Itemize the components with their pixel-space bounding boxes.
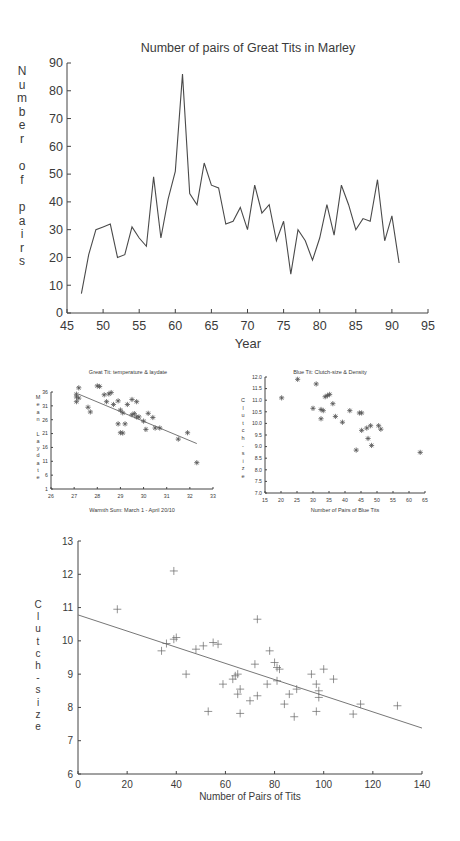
y-axis-label-letter: h: [241, 435, 244, 441]
data-point-marker: [153, 425, 158, 430]
data-point-marker: [209, 639, 217, 647]
data-point-marker: [170, 567, 178, 575]
x-tick-label: 75: [277, 319, 291, 333]
data-point-marker: [74, 399, 79, 404]
y-axis-label-letter: L: [36, 431, 39, 437]
y-tick-label: 90: [49, 56, 63, 70]
y-axis-label-letter: n: [36, 416, 39, 422]
x-tick-label: 0: [75, 779, 81, 790]
x-tick-label: 140: [414, 779, 431, 790]
y-tick-label: 11: [63, 602, 74, 613]
data-point-marker: [340, 420, 345, 425]
axes: 4550556065707580859095010203040506070809…: [49, 56, 435, 333]
y-axis-label-letter: r: [20, 241, 24, 255]
axes: 262728293031323316111621263136: [42, 389, 216, 499]
x-tick-label: 40: [171, 779, 183, 790]
y-axis-label-letter: e: [36, 401, 39, 407]
x-axis-label: Year: [235, 336, 262, 351]
y-axis-label-letter: i: [21, 227, 24, 241]
y-axis-label-letter: l: [37, 611, 39, 622]
chart-title: Great Tit: temperature & laydate: [89, 369, 167, 375]
x-tick-label: 60: [406, 497, 412, 503]
great-tit-temperature-laydate-scatter: Great Tit: temperature & laydate MeanLay…: [36, 369, 216, 513]
data-point-marker: [176, 437, 181, 442]
y-axis-label-letter: -: [36, 672, 39, 683]
data-point-marker: [253, 692, 261, 700]
data-point-marker: [88, 409, 93, 414]
x-tick-label: 85: [349, 319, 363, 333]
data-point-marker: [204, 707, 212, 715]
axes: 15202530354045505560657.07.58.08.59.09.5…: [252, 374, 428, 503]
x-tick-label: 45: [358, 497, 364, 503]
x-tick-label: 80: [313, 319, 327, 333]
line-series: [81, 74, 399, 294]
x-tick-label: 80: [269, 779, 281, 790]
data-point-marker: [158, 647, 166, 655]
data-point-marker: [104, 399, 109, 404]
data-point-marker: [307, 670, 315, 678]
y-axis-label-letter: p: [19, 200, 26, 214]
data-point-marker: [97, 384, 102, 389]
x-tick-label: 50: [374, 497, 380, 503]
data-point-marker: [76, 385, 81, 390]
x-tick-label: 33: [210, 493, 216, 499]
tits-clutch-density-scatter: Clutch-size 0204060801001201406789101112…: [34, 536, 430, 803]
y-axis-label-letter: u: [35, 623, 41, 634]
x-tick-label: 60: [168, 319, 182, 333]
data-point-marker: [116, 421, 121, 426]
data-point-marker: [251, 660, 259, 668]
x-tick-label: 60: [220, 779, 232, 790]
data-point-marker: [354, 447, 359, 452]
y-axis-label-letter: N: [18, 64, 27, 78]
data-point-marker: [192, 645, 200, 653]
y-axis-label-letter: a: [36, 460, 40, 466]
x-axis-label: Warmth Sum: March 1 - April 20/10: [89, 507, 175, 513]
figure-canvas: Number of pairs of Great Tits in Marley …: [0, 0, 460, 841]
y-axis-label-letter: r: [20, 132, 24, 146]
y-axis-label-letter: e: [241, 473, 244, 479]
y-axis-label: MeanLaydate: [36, 394, 41, 480]
data-point-marker: [327, 392, 332, 397]
data-point-marker: [279, 395, 284, 400]
y-tick-label: 31: [42, 403, 48, 409]
y-axis-label-letter: y: [37, 445, 40, 451]
y-tick-label: 13: [62, 536, 74, 547]
scatter-points: [74, 383, 200, 465]
data-point-marker: [146, 411, 151, 416]
data-point-marker: [310, 406, 315, 411]
data-point-marker: [122, 421, 127, 426]
data-point-marker: [364, 425, 369, 430]
y-tick-label: 11.0: [252, 397, 262, 403]
data-point-marker: [246, 697, 254, 705]
data-point-marker: [102, 392, 107, 397]
scatter-points: [279, 377, 423, 455]
y-tick-label: 7: [67, 735, 73, 746]
x-tick-label: 35: [326, 497, 332, 503]
y-tick-label: 12: [62, 569, 74, 580]
scatter-points: [78, 567, 422, 728]
data-point-marker: [111, 402, 116, 407]
x-tick-label: 30: [141, 493, 147, 499]
y-axis-label-letter: u: [241, 412, 244, 418]
x-tick-label: 70: [241, 319, 255, 333]
data-point-marker: [295, 377, 300, 382]
x-axis-label: Number of Pairs of Blue Tits: [311, 507, 380, 513]
y-axis-label-letter: u: [19, 78, 26, 92]
y-tick-label: 7.0: [255, 490, 262, 496]
y-axis-label-letter: a: [19, 214, 26, 228]
y-tick-label: 20: [49, 251, 63, 265]
data-point-marker: [219, 680, 227, 688]
data-point-marker: [263, 680, 271, 688]
y-tick-label: 10: [49, 279, 63, 293]
y-axis-label-letter: z: [36, 709, 41, 720]
y-tick-label: 40: [49, 195, 63, 209]
data-point-marker: [253, 615, 261, 623]
x-tick-label: 20: [122, 779, 134, 790]
y-tick-label: 10: [62, 635, 74, 646]
x-tick-label: 50: [96, 319, 110, 333]
data-point-marker: [125, 402, 130, 407]
x-tick-label: 25: [294, 497, 300, 503]
data-point-marker: [214, 640, 222, 648]
x-tick-label: 30: [310, 497, 316, 503]
y-tick-label: 16: [42, 444, 48, 450]
